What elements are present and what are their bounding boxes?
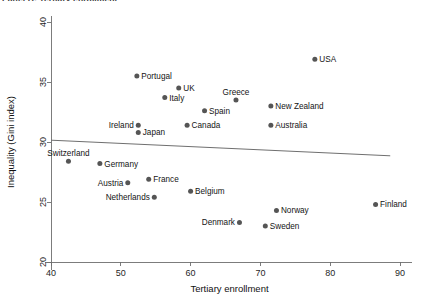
data-point-portugal [134, 74, 139, 79]
point-label-canada: Canada [192, 121, 221, 130]
point-label-norway: Norway [281, 206, 310, 215]
x-tick-label: 40 [46, 268, 56, 278]
point-label-spain: Spain [209, 107, 230, 116]
y-tick-label: 30 [38, 137, 48, 147]
x-tick-label: 60 [186, 268, 196, 278]
point-label-portugal: Portugal [141, 72, 172, 81]
point-label-uk: UK [183, 84, 195, 93]
scatter-plot-figure: Panel B: Tertiary enrollment 20253035404… [0, 0, 421, 303]
data-point-australia [268, 123, 273, 128]
point-label-netherlands: Netherlands [106, 193, 150, 202]
data-point-norway [274, 208, 279, 213]
data-point-spain [202, 108, 207, 113]
data-point-germany [97, 161, 102, 166]
point-label-usa: USA [319, 55, 336, 64]
point-label-switzerland: Switzerland [47, 149, 90, 158]
point-label-austria: Austria [98, 179, 124, 188]
data-point-ireland [136, 123, 141, 128]
x-axis-title: Tertiary enrollment [190, 283, 268, 294]
point-label-sweden: Sweden [270, 222, 300, 231]
y-axis-title: Inequality (Gini index) [5, 96, 16, 188]
data-point-uk [176, 86, 181, 91]
data-point-belgium [188, 189, 193, 194]
point-label-ireland: Ireland [109, 121, 134, 130]
x-tick-label: 70 [255, 268, 265, 278]
point-label-australia: Australia [275, 121, 307, 130]
point-label-italy: Italy [169, 94, 185, 103]
data-points-group: SwitzerlandGermanyAustriaPortugalIreland… [47, 55, 407, 231]
point-label-belgium: Belgium [195, 187, 225, 196]
y-tick-label: 40 [38, 17, 48, 27]
point-label-new-zealand: New Zealand [275, 102, 324, 111]
data-point-greece [233, 98, 238, 103]
point-label-france: France [153, 175, 179, 184]
data-point-netherlands [152, 195, 157, 200]
data-point-sweden [263, 224, 268, 229]
x-tick-label: 50 [116, 268, 126, 278]
data-point-switzerland [66, 159, 71, 164]
y-tick-label: 25 [38, 197, 48, 207]
y-tick-label: 35 [38, 77, 48, 87]
data-point-japan [136, 130, 141, 135]
point-label-germany: Germany [104, 160, 139, 169]
fit-line-group [51, 140, 390, 156]
x-tick-label: 80 [325, 268, 335, 278]
data-point-denmark [237, 220, 242, 225]
data-point-canada [185, 123, 190, 128]
plot-canvas: 2025303540405060708090 SwitzerlandGerman… [0, 0, 421, 303]
point-label-greece: Greece [223, 88, 250, 97]
point-label-denmark: Denmark [202, 218, 236, 227]
data-point-usa [312, 57, 317, 62]
data-point-italy [162, 95, 167, 100]
data-point-finland [373, 202, 378, 207]
x-tick-label: 90 [395, 268, 405, 278]
y-tick-label: 20 [38, 257, 48, 267]
data-point-austria [125, 180, 130, 185]
axes-group: 2025303540405060708090 [38, 16, 412, 278]
point-label-japan: Japan [143, 128, 166, 137]
point-label-finland: Finland [380, 200, 407, 209]
data-point-france [146, 177, 151, 182]
data-point-new-zealand [268, 104, 273, 109]
fit-line [51, 140, 390, 156]
